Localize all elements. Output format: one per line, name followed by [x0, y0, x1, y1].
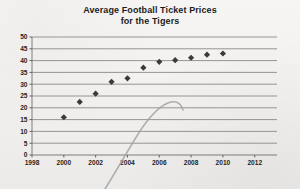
y-tick-label: 5 — [24, 140, 28, 147]
y-tick-label: 25 — [20, 92, 28, 99]
x-tick-label: 2008 — [184, 159, 199, 166]
data-point-marker — [172, 57, 178, 63]
x-tick-label: 2006 — [152, 159, 167, 166]
y-tick-label: 35 — [20, 69, 28, 76]
y-tick-label: 40 — [20, 57, 28, 64]
y-tick-label: 15 — [20, 116, 28, 123]
y-tick-label: 0 — [24, 151, 28, 158]
y-tick-label: 20 — [20, 104, 28, 111]
x-tick-label: 2012 — [247, 159, 262, 166]
gridlines — [32, 37, 277, 143]
data-point-marker — [140, 65, 146, 71]
scatter-chart: Average Football Ticket Prices for the T… — [0, 0, 300, 189]
data-point-marker — [124, 75, 130, 81]
hand-drawn-pencil-curve-icon — [105, 102, 183, 189]
data-point-marker — [220, 50, 226, 56]
y-tick-label: 50 — [20, 33, 28, 40]
x-tick-label: 2000 — [56, 159, 71, 166]
x-tick-labels: 19982000200220042006200820102012 — [25, 159, 263, 166]
data-point-marker — [204, 52, 210, 58]
data-point-marker — [188, 55, 194, 61]
x-tick-label: 2010 — [216, 159, 231, 166]
chart-svg: 05101520253035404550 1998200020022004200… — [0, 0, 300, 189]
x-tick-label: 1998 — [25, 159, 40, 166]
data-point-marker — [77, 99, 83, 105]
y-tick-labels: 05101520253035404550 — [20, 33, 28, 158]
y-tick-label: 45 — [20, 45, 28, 52]
y-tick-label: 30 — [20, 81, 28, 88]
data-point-marker — [156, 59, 162, 65]
x-tick-label: 2002 — [88, 159, 103, 166]
y-tick-label: 10 — [20, 128, 28, 135]
